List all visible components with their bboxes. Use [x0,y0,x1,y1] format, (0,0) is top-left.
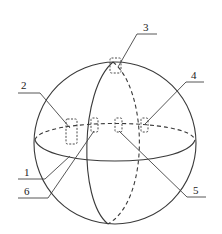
label-4: 4 [191,69,197,81]
label-5: 5 [193,184,199,196]
sphere-diagram: 3 2 4 1 6 5 [0,0,222,234]
label-6: 6 [24,185,30,197]
label-2: 2 [21,79,27,91]
leader-2 [18,93,70,128]
meridian-front [87,62,113,224]
label-1: 1 [24,166,30,178]
meridian-back [108,62,139,224]
sensor-6 [91,118,98,132]
sensor-2 [66,119,77,144]
sphere-outline [34,62,196,224]
label-3: 3 [143,21,149,33]
equator-front [35,140,195,161]
sensor-5 [115,118,122,132]
